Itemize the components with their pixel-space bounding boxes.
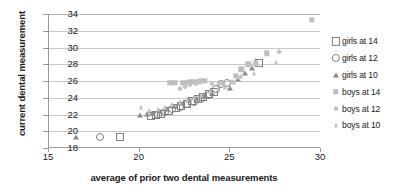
legend-label: boys at 10: [342, 120, 380, 130]
data-point: [96, 133, 104, 141]
legend-item-boys-at-10[interactable]: boys at 10: [329, 117, 403, 134]
y-tick-mark: [43, 81, 48, 82]
data-point: [199, 93, 203, 98]
data-point: [276, 49, 282, 55]
x-tick-mark: [320, 148, 321, 152]
y-tick-mark: [43, 31, 48, 32]
x-tick-mark: [139, 148, 140, 152]
scatter-chart: current dental measurement average of pr…: [0, 0, 403, 195]
legend-label: boys at 12: [342, 104, 380, 114]
legend-item-boys-at-14[interactable]: boys at 14: [329, 83, 403, 100]
gridline: [49, 131, 320, 132]
legend-marker-triangle-open-icon: [329, 69, 342, 80]
legend-item-girls-at-14[interactable]: girls at 14: [329, 33, 403, 50]
legend-marker-square-filled-icon: [329, 86, 342, 97]
legend-marker-square-open-icon: [329, 36, 342, 47]
gridline: [49, 31, 320, 32]
data-point: [185, 97, 189, 102]
y-tick-label: 26: [54, 75, 78, 86]
y-tick-label: 34: [54, 8, 78, 19]
legend-marker-circle-open-icon: [329, 53, 342, 64]
data-point: [223, 84, 227, 89]
data-point: [178, 99, 182, 104]
data-point: [309, 17, 314, 22]
data-point: [147, 108, 151, 113]
y-tick-label: 22: [54, 109, 78, 120]
data-point: [239, 73, 243, 78]
data-point: [163, 104, 167, 109]
data-point: [139, 104, 143, 109]
legend-item-boys-at-12[interactable]: boys at 12: [329, 100, 403, 117]
x-tick-label: 20: [122, 151, 156, 162]
legend-label: boys at 14: [342, 87, 380, 97]
gridline: [49, 64, 320, 65]
x-tick-mark: [48, 148, 49, 152]
x-axis-title: average of prior two dental measurements: [48, 172, 320, 183]
y-tick-label: 20: [54, 125, 78, 136]
y-tick-label: 30: [54, 42, 78, 53]
x-tick-mark: [229, 148, 230, 152]
data-point: [232, 79, 236, 84]
y-tick-label: 24: [54, 92, 78, 103]
data-point: [137, 112, 143, 117]
y-tick-label: 28: [54, 58, 78, 69]
x-tick-label: 25: [212, 151, 246, 162]
data-point: [208, 89, 212, 94]
data-point: [170, 102, 174, 107]
x-tick-label: 15: [31, 151, 65, 162]
data-point: [171, 80, 176, 85]
gridline: [49, 115, 320, 116]
data-point: [156, 107, 160, 112]
legend-label: girls at 12: [342, 53, 378, 63]
y-tick-mark: [43, 131, 48, 132]
legend-marker-triangle-filled-icon: [329, 120, 342, 131]
data-point: [116, 133, 124, 141]
gridline: [49, 14, 320, 15]
data-point: [252, 70, 256, 75]
data-point: [253, 61, 258, 66]
y-tick-mark: [43, 115, 48, 116]
y-axis-title: current dental measurement: [16, 4, 27, 144]
y-tick-mark: [43, 48, 48, 49]
legend-marker-diamond-filled-icon: [329, 103, 342, 114]
data-point: [239, 67, 244, 72]
data-point: [227, 85, 233, 90]
legend-label: girls at 10: [342, 70, 378, 80]
y-tick-label: 32: [54, 25, 78, 36]
data-point: [264, 51, 269, 56]
data-point: [216, 87, 220, 92]
legend-label: girls at 14: [342, 36, 378, 46]
plot-area: [48, 14, 320, 148]
y-tick-mark: [43, 14, 48, 15]
y-tick-mark: [43, 98, 48, 99]
x-tick-label: 30: [303, 151, 337, 162]
chart-legend: girls at 14girls at 12girls at 10boys at…: [329, 33, 403, 134]
data-point: [192, 94, 196, 99]
legend-item-girls-at-10[interactable]: girls at 10: [329, 67, 403, 84]
data-point: [274, 59, 278, 64]
legend-item-girls-at-12[interactable]: girls at 12: [329, 50, 403, 67]
y-tick-mark: [43, 64, 48, 65]
